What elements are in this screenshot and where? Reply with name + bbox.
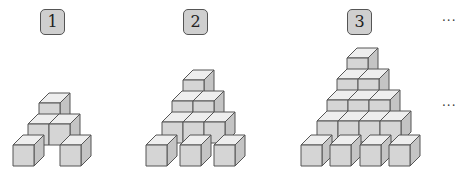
cube-figures: [0, 0, 465, 180]
cube: [360, 135, 391, 166]
cube: [301, 135, 332, 166]
figure-3-cubes: [301, 48, 420, 166]
cube: [214, 135, 245, 166]
cube: [180, 135, 211, 166]
figure-2-cubes: [146, 70, 245, 166]
cube: [60, 135, 91, 166]
cube: [330, 135, 361, 166]
cube: [389, 135, 420, 166]
cube: [146, 135, 177, 166]
cube: [13, 135, 44, 166]
figure-1-cubes: [13, 93, 91, 166]
